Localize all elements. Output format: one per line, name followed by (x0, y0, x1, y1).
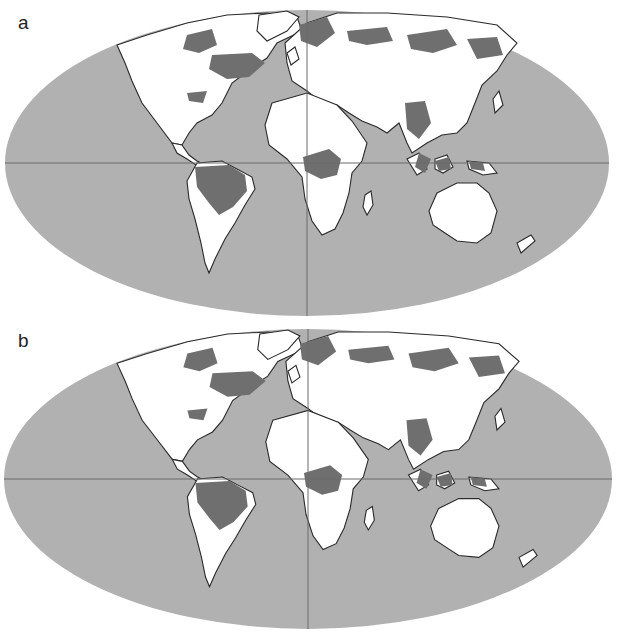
panel-label-a: a (18, 12, 29, 34)
map-panel-a (5, 10, 609, 316)
panel-label-b: b (18, 330, 29, 352)
figure-canvas (0, 0, 620, 637)
map-panel-b (4, 329, 612, 629)
